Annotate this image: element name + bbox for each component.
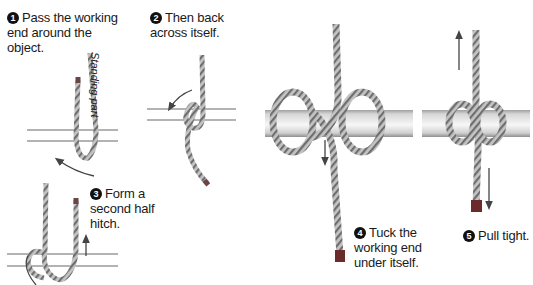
- step-number-badge: 1: [7, 12, 19, 24]
- standing-part-label: Standing part: [89, 52, 101, 117]
- step-1-caption: 1Pass the working end around the object.: [7, 10, 118, 55]
- step-number-badge: 4: [354, 227, 366, 239]
- step-2-illustration: [147, 55, 236, 187]
- rope-working-end: [335, 250, 345, 262]
- step-number-badge: 3: [90, 188, 102, 200]
- step-number-badge: 5: [463, 230, 475, 242]
- step-4-caption: 4Tuck the working end under itself.: [354, 225, 422, 270]
- rope-working-end: [76, 77, 81, 83]
- direction-arrow: [58, 160, 94, 176]
- step-5-illustration: [400, 30, 530, 212]
- step-2-caption: 2Then back across itself.: [150, 10, 224, 40]
- step-number-badge: 2: [150, 12, 162, 24]
- step-1-illustration: [27, 53, 118, 176]
- step-5-caption: 5Pull tight.: [463, 228, 529, 243]
- step-3-caption: 3Form a second half hitch.: [90, 186, 154, 231]
